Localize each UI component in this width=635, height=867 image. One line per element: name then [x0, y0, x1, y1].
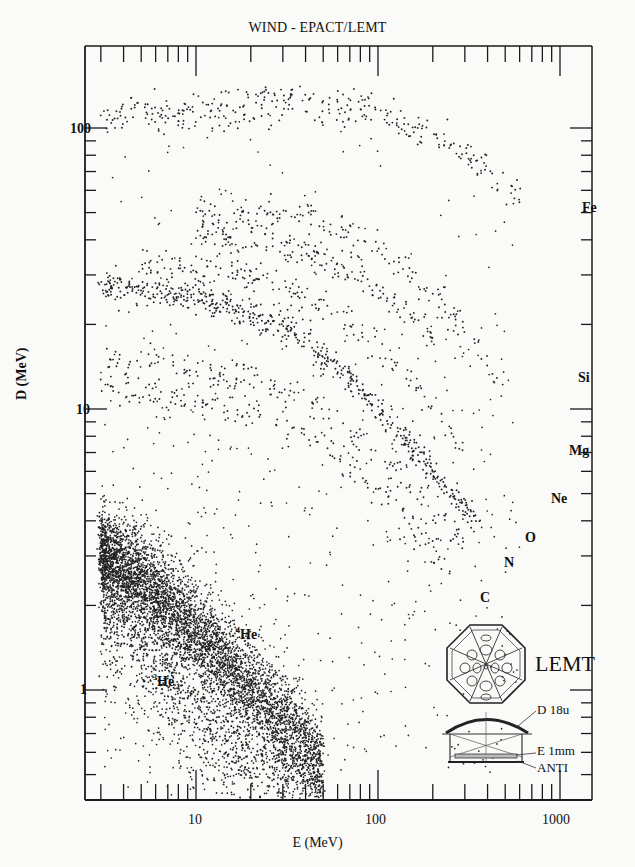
x-tick-1000: 1000 — [542, 812, 570, 828]
label-he4-text: He — [240, 627, 257, 642]
x-tick-10: 10 — [188, 812, 202, 828]
y-tick-10: 10 — [76, 402, 90, 418]
label-fe: Fe — [582, 200, 597, 216]
x-axis-label: E (MeV) — [0, 835, 635, 851]
label-he4: 4He — [236, 626, 257, 643]
detector-d-label: D 18u — [537, 702, 569, 718]
detector-anti-label: ANTI — [537, 760, 568, 776]
y-tick-100: 100 — [70, 121, 91, 137]
y-tick-1: 1 — [80, 682, 87, 698]
label-he3: 3He — [153, 673, 174, 690]
label-ne: Ne — [551, 491, 567, 507]
lemt-detector-diagram — [442, 625, 536, 768]
data-points — [96, 85, 521, 798]
scatter-plot — [0, 0, 635, 867]
label-mg: Mg — [569, 443, 589, 459]
label-he3-text: He — [157, 674, 174, 689]
detector-e-label: E 1mm — [537, 743, 575, 759]
label-n: N — [504, 555, 514, 571]
label-si: Si — [578, 370, 590, 386]
label-c: C — [480, 590, 490, 606]
lemt-label: LEMT — [535, 651, 595, 677]
label-o: O — [525, 530, 536, 546]
x-tick-100: 100 — [365, 812, 386, 828]
y-axis-label: D (MeV) — [14, 348, 30, 400]
